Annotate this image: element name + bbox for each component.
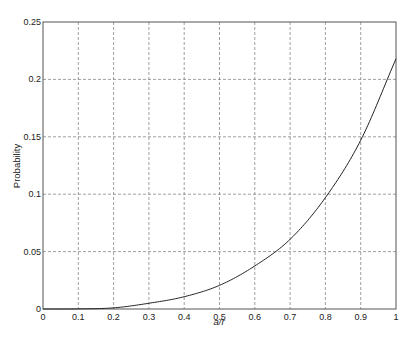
x-tick-label: 1 (393, 312, 398, 322)
y-tick-label: 0.1 (28, 189, 41, 199)
grid-lines (43, 22, 396, 309)
x-tick-label: 0.8 (319, 312, 332, 322)
x-tick-label: 0.9 (354, 312, 367, 322)
y-tick-labels: 00.050.10.150.20.25 (23, 17, 41, 314)
x-tick-label: 0.3 (143, 312, 156, 322)
y-axis-label: Probability (11, 144, 22, 189)
x-tick-label: 0.7 (284, 312, 297, 322)
y-tick-label: 0.05 (23, 247, 41, 257)
x-tick-label: 0 (40, 312, 45, 322)
y-tick-label: 0 (36, 304, 41, 314)
y-tick-label: 0.15 (23, 132, 41, 142)
y-tick-label: 0.25 (23, 17, 41, 27)
x-tick-label: 0.4 (178, 312, 191, 322)
x-tick-label: 0.2 (107, 312, 120, 322)
probability-chart: 00.10.20.30.40.50.60.70.80.91 00.050.10.… (0, 0, 410, 340)
plot-frame (43, 22, 396, 309)
x-tick-label: 0.6 (249, 312, 262, 322)
x-axis-label: a/r (213, 316, 225, 327)
y-tick-label: 0.2 (28, 74, 41, 84)
x-tick-label: 0.1 (72, 312, 85, 322)
